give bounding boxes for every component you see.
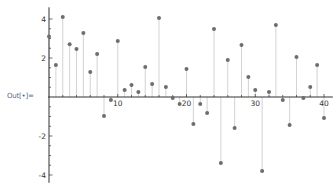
data-point (308, 85, 312, 89)
data-point (123, 88, 127, 92)
x-tick-label: 30 (250, 99, 260, 108)
data-point (157, 16, 161, 20)
data-point (95, 52, 99, 56)
x-tick-label: 20 (182, 99, 192, 108)
data-point (185, 67, 189, 71)
data-point (301, 96, 305, 100)
data-point (219, 161, 223, 165)
y-tick-label: 2 (41, 54, 46, 63)
x-tick-label: 10 (113, 99, 123, 108)
y-tick-label: -2 (39, 132, 47, 141)
data-point (68, 42, 72, 46)
y-tick-label: -4 (39, 171, 47, 180)
data-point (81, 31, 85, 35)
data-point (191, 122, 195, 126)
data-point (136, 90, 140, 94)
data-point (281, 98, 285, 102)
data-point (130, 83, 134, 87)
data-point (315, 63, 319, 67)
axes (48, 7, 333, 183)
data-point (171, 96, 175, 100)
data-point (253, 88, 257, 92)
data-point (102, 114, 106, 118)
data-point (143, 65, 147, 69)
data-point (288, 123, 292, 127)
data-point (260, 169, 264, 173)
stem-plot: 10203040-4-224 (0, 0, 336, 187)
data-point (116, 39, 120, 43)
y-tick-label: 4 (41, 15, 46, 24)
data-point (267, 90, 271, 94)
data-point (150, 82, 154, 86)
data-point (212, 27, 216, 31)
x-tick-label: 40 (319, 99, 329, 108)
data-point (54, 63, 58, 67)
data-point (233, 126, 237, 130)
data-point (61, 15, 65, 19)
data-point (240, 43, 244, 47)
data-point (47, 35, 51, 39)
data-point (198, 102, 202, 106)
data-point (274, 23, 278, 27)
data-point (205, 111, 209, 115)
data-point (164, 85, 168, 89)
data-point (226, 58, 230, 62)
stems (49, 17, 324, 171)
data-point (322, 116, 326, 120)
data-point (75, 47, 79, 51)
data-point (88, 70, 92, 74)
data-point (246, 75, 250, 79)
data-point (295, 55, 299, 59)
